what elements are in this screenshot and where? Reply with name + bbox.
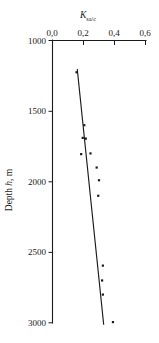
x-tick-label-0: 0,0: [46, 28, 58, 38]
data-point: [82, 137, 84, 139]
y-tick-label-2000: 2000: [28, 177, 47, 187]
y-tick-label-2500: 2500: [28, 247, 47, 257]
x-tick-label-3: 0,6: [139, 28, 151, 38]
data-point: [112, 321, 114, 323]
data-point: [83, 124, 85, 126]
data-point: [89, 152, 91, 154]
y-tick-label-1500: 1500: [28, 106, 47, 116]
chart-svg: Ksa/c 0,0 0,2 0,4 0,6 1000 1500 2000 250…: [0, 0, 159, 343]
trend-line: [77, 69, 103, 324]
data-point: [96, 166, 98, 168]
y-tick-label-3000: 3000: [28, 318, 47, 328]
x-axis-title: Ksa/c: [79, 10, 96, 22]
y-axis-title-suffix: , m: [4, 168, 14, 181]
y-axis-title: Depth h, m: [4, 168, 14, 211]
chart-figure: Ksa/c 0,0 0,2 0,4 0,6 1000 1500 2000 250…: [0, 0, 159, 343]
data-point: [75, 71, 77, 73]
data-point: [98, 179, 100, 181]
data-point: [97, 195, 99, 197]
y-tick-label-1000: 1000: [28, 36, 47, 46]
y-axis-title-prefix: Depth: [4, 186, 14, 212]
data-point: [102, 265, 104, 267]
data-point: [80, 153, 82, 155]
data-point: [85, 138, 87, 140]
x-axis-title-subscript: sa/c: [86, 15, 96, 22]
x-tick-label-2: 0,4: [108, 28, 120, 38]
data-point: [101, 279, 103, 281]
x-tick-label-1: 0,2: [77, 28, 88, 38]
data-point: [102, 293, 104, 295]
